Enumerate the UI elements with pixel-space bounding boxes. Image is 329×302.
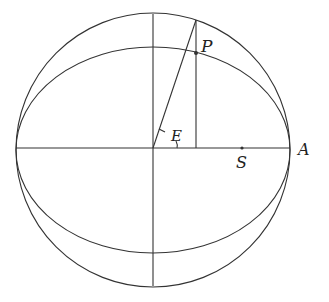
point-p-dot: [194, 51, 198, 55]
label-s: S: [236, 153, 247, 172]
diagram-canvas: P E S A: [0, 0, 329, 302]
focus-s-dot: [240, 146, 243, 149]
label-e: E: [170, 127, 182, 145]
angle-mark-upper: [159, 129, 165, 132]
label-p: P: [200, 36, 213, 56]
label-a: A: [296, 140, 310, 159]
